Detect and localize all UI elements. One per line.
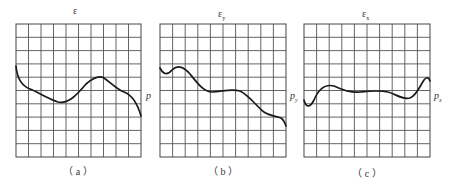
grid-c [304, 24, 430, 157]
panel-a [16, 24, 141, 157]
title-a: ε [73, 6, 77, 18]
title-b: εy [218, 9, 225, 21]
side-label-b: py [290, 91, 298, 103]
caption-c: （ c ） [347, 169, 387, 179]
side-label-b-sub: y [295, 97, 298, 103]
title-b-sub: y [222, 15, 225, 21]
side-label-a-symbol: p [146, 90, 151, 101]
caption-a: （ a ） [58, 167, 98, 177]
caption-b: （ b ） [203, 167, 243, 177]
panel-b [160, 24, 286, 157]
side-label-c: px [434, 91, 442, 103]
panel-c [304, 24, 430, 157]
title-c: εx [362, 9, 369, 21]
title-a-symbol: ε [73, 5, 77, 16]
diagram-canvas [0, 0, 452, 190]
side-label-c-sub: x [439, 97, 442, 103]
title-c-sub: x [366, 15, 369, 21]
side-label-a: p [146, 91, 151, 103]
